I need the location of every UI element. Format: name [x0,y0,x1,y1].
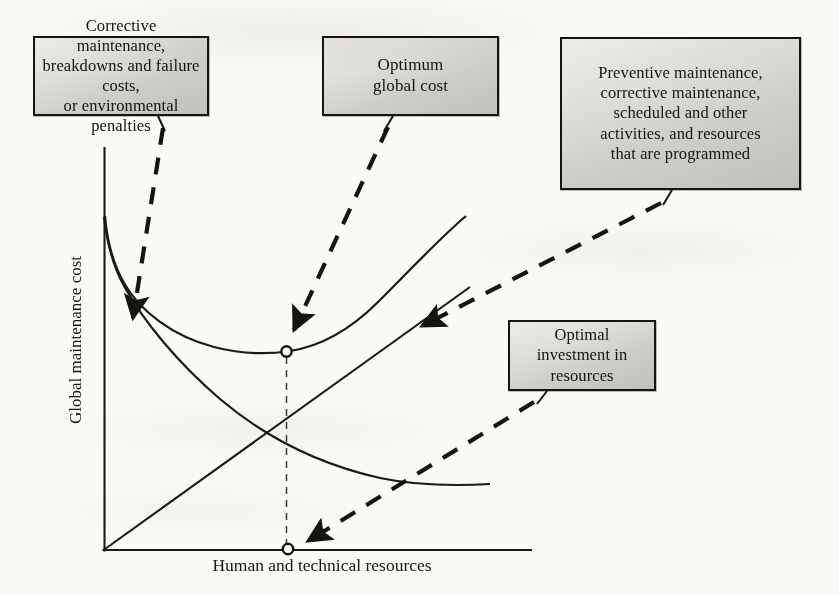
callout-optimal-investment-text: Optimal investment in resources [531,325,634,385]
callout-corrective-text: Corrective maintenance, breakdowns and f… [35,16,207,137]
leader-stub-optimal-inv [537,391,547,404]
optimal-investment-point-marker [283,544,293,554]
optimum-point-marker [281,346,291,356]
pointer-arrow-corrective [133,128,163,318]
leader-stub-preventive [663,190,672,205]
callout-preventive-maintenance[interactable]: Preventive maintenance, corrective maint… [560,37,801,190]
pointer-arrow-optimum [294,127,388,330]
figure-canvas: Corrective maintenance, breakdowns and f… [0,0,839,595]
pointer-arrow-optimal-investment [308,402,534,541]
callout-corrective-maintenance[interactable]: Corrective maintenance, breakdowns and f… [33,36,209,116]
callout-optimum-global-cost[interactable]: Optimum global cost [322,36,499,116]
x-axis-label: Human and technical resources [172,555,472,576]
pointer-arrow-preventive [422,203,661,326]
global-cost-curve [105,216,466,353]
axes-group [104,148,532,551]
callout-optimum-text: Optimum global cost [367,55,454,96]
callout-optimal-investment[interactable]: Optimal investment in resources [508,320,656,391]
y-axis-label: Global maintenance cost [66,225,86,455]
corrective-cost-curve [104,217,490,485]
preventive-cost-line [105,287,470,549]
callout-preventive-text: Preventive maintenance, corrective maint… [592,63,768,164]
